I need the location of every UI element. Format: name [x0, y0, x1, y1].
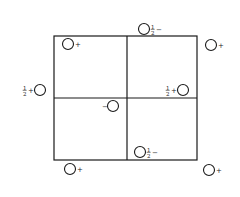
atom-circle-icon — [135, 147, 146, 158]
fraction-denominator: 2 — [147, 153, 151, 159]
atom-circle-icon — [108, 101, 119, 112]
atom-circle-icon — [65, 164, 76, 175]
atom-circle-icon — [206, 40, 217, 51]
charge-sites: +12−+12+−12+12−++ — [23, 24, 224, 176]
site-bottom-left-outer: + — [65, 164, 84, 175]
charge-sign: + — [171, 87, 177, 95]
atom-circle-icon — [63, 39, 74, 50]
atom-circle-icon — [178, 85, 189, 96]
charge-sign: + — [216, 167, 222, 175]
site-top-edge: 12− — [139, 24, 163, 36]
atom-circle-icon — [139, 24, 150, 35]
site-left-edge: 12+ — [23, 85, 46, 97]
fraction-denominator: 2 — [166, 91, 170, 97]
charge-sign: − — [152, 149, 158, 157]
site-bottom-right-outer: + — [204, 165, 223, 176]
lattice-diagram: +12−+12+−12+12−++ — [0, 0, 240, 197]
atom-circle-icon — [204, 165, 215, 176]
site-center: − — [102, 101, 119, 112]
site-bottom-inner: 12− — [135, 147, 159, 159]
site-top-right-outer: + — [206, 40, 225, 51]
charge-sign: + — [77, 166, 83, 174]
site-top-left-inner: + — [63, 39, 82, 50]
fraction-denominator: 2 — [23, 91, 27, 97]
charge-sign: + — [28, 87, 34, 95]
charge-sign: + — [218, 42, 224, 50]
charge-sign: − — [156, 26, 162, 34]
charge-sign: − — [102, 103, 108, 111]
charge-sign: + — [75, 41, 81, 49]
site-right-inner: 12+ — [166, 85, 189, 97]
fraction-denominator: 2 — [151, 30, 155, 36]
atom-circle-icon — [35, 85, 46, 96]
